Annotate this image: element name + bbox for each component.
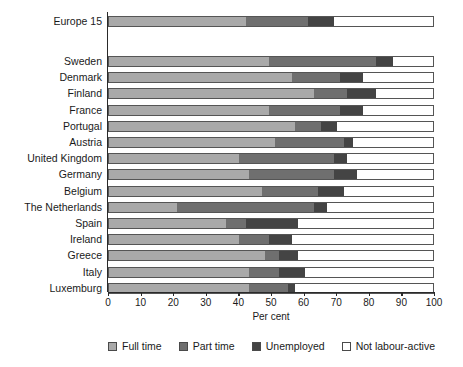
y-axis-line (107, 12, 108, 292)
stacked-bar (108, 137, 434, 148)
legend-swatch-icon (108, 342, 117, 351)
x-tick-label: 100 (419, 297, 449, 308)
stacked-bar (108, 267, 434, 278)
bar-segment-unemployed (279, 268, 305, 277)
x-tick-label: 40 (223, 297, 253, 308)
category-label: Italy (4, 267, 102, 278)
category-label: The Netherlands (4, 202, 102, 213)
bar-segment-part-time (295, 122, 321, 131)
category-label-column: Europe 15SwedenDenmarkFinlandFrancePortu… (0, 12, 102, 292)
legend-swatch-icon (252, 342, 261, 351)
bar-segment-full-time (109, 203, 177, 212)
x-tick (336, 292, 337, 296)
x-tick-label: 0 (93, 297, 123, 308)
bar-segment-part-time (246, 17, 308, 26)
bar-segment-full-time (109, 219, 226, 228)
bar-segment-part-time (177, 203, 314, 212)
bar-segment-unemployed (279, 251, 299, 260)
bar-segment-unemployed (376, 57, 392, 66)
category-label: Ireland (4, 234, 102, 245)
stacked-bar (108, 153, 434, 164)
x-tick (401, 292, 402, 296)
x-tick (238, 292, 239, 296)
bar-segment-part-time (292, 73, 341, 82)
bar-segment-full-time (109, 138, 275, 147)
legend-item[interactable]: Not labour-active (342, 340, 435, 352)
bar-segment-part-time (249, 170, 334, 179)
legend-item[interactable]: Full time (108, 340, 162, 352)
bar-segment-part-time (262, 187, 317, 196)
stacked-bar (108, 105, 434, 116)
bar-segment-full-time (109, 268, 249, 277)
category-label: Greece (4, 250, 102, 261)
bar-segment-unemployed (340, 73, 363, 82)
stacked-bar (108, 16, 434, 27)
x-tick-label: 20 (158, 297, 188, 308)
bar-segment-full-time (109, 235, 239, 244)
bar-segment-unemployed (334, 154, 347, 163)
x-tick (271, 292, 272, 296)
bar-segment-unemployed (334, 170, 357, 179)
bar-segment-part-time (314, 89, 347, 98)
bar-segment-full-time (109, 57, 269, 66)
category-label: Portugal (4, 121, 102, 132)
bar-segment-part-time (269, 106, 341, 115)
legend-label: Not labour-active (356, 340, 435, 352)
bar-segment-unemployed (314, 203, 327, 212)
x-tick (304, 292, 305, 296)
x-tick-label: 60 (289, 297, 319, 308)
bar-segment-full-time (109, 122, 295, 131)
bar-segment-full-time (109, 106, 269, 115)
stacked-bar (108, 121, 434, 132)
category-label: United Kingdom (4, 153, 102, 164)
stacked-bar (108, 88, 434, 99)
x-tick (108, 292, 109, 296)
stacked-bar (108, 234, 434, 245)
bar-segment-part-time (275, 138, 343, 147)
x-tick (206, 292, 207, 296)
bar-segment-part-time (249, 268, 278, 277)
stacked-bar (108, 186, 434, 197)
bar-segment-unemployed (318, 187, 344, 196)
stacked-bar (108, 169, 434, 180)
category-label: France (4, 105, 102, 116)
x-tick-label: 70 (321, 297, 351, 308)
legend-item[interactable]: Part time (179, 340, 235, 352)
bar-segment-part-time (269, 57, 377, 66)
bar-segment-full-time (109, 170, 249, 179)
category-label: Finland (4, 88, 102, 99)
legend-swatch-icon (179, 342, 188, 351)
stacked-bar (108, 72, 434, 83)
bar-segment-full-time (109, 17, 246, 26)
stacked-bar-chart: Europe 15SwedenDenmarkFinlandFrancePortu… (0, 0, 463, 367)
category-label: Belgium (4, 186, 102, 197)
legend-label: Unemployed (266, 340, 325, 352)
bar-segment-part-time (239, 235, 268, 244)
bar-segment-unemployed (347, 89, 376, 98)
bar-segment-full-time (109, 187, 262, 196)
bar-segment-full-time (109, 89, 314, 98)
x-tick-label: 90 (386, 297, 416, 308)
category-label: Spain (4, 218, 102, 229)
stacked-bar (108, 202, 434, 213)
chart-legend: Full timePart timeUnemployedNot labour-a… (108, 338, 453, 354)
legend-label: Full time (122, 340, 162, 352)
legend-label: Part time (193, 340, 235, 352)
category-label: Sweden (4, 56, 102, 67)
x-tick-label: 30 (191, 297, 221, 308)
bar-segment-unemployed (269, 235, 292, 244)
x-tick-label: 80 (354, 297, 384, 308)
x-axis-title: Per cent (108, 311, 434, 322)
legend-item[interactable]: Unemployed (252, 340, 325, 352)
stacked-bar (108, 56, 434, 67)
legend-swatch-icon (342, 342, 351, 351)
x-tick (173, 292, 174, 296)
bar-segment-unemployed (308, 17, 334, 26)
category-label: Germany (4, 169, 102, 180)
category-label: Europe 15 (4, 16, 102, 27)
bar-segment-full-time (109, 154, 239, 163)
bar-segment-unemployed (344, 138, 354, 147)
bar-segment-part-time (226, 219, 246, 228)
category-label: Denmark (4, 72, 102, 83)
x-tick (141, 292, 142, 296)
